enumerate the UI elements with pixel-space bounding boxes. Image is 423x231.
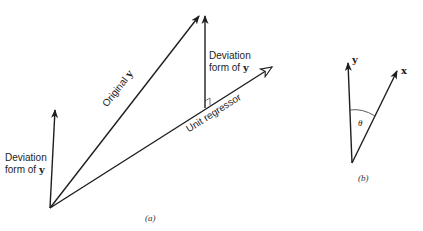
panel-a [50,16,272,208]
right-deviation-line2: form of y [209,62,251,74]
deviation-form-of-y-left-vector [50,110,55,208]
y-symbol: y [243,62,249,73]
unit-regressor-vector [50,67,272,208]
theta-label: θ [358,118,362,128]
regression-geometry-figure: Deviation form of y Original y Deviation… [0,0,423,231]
left-deviation-line2: form of y [5,164,47,176]
angle-arc [350,110,375,116]
original-y-vector [50,16,199,208]
left-deviation-line1: Deviation [5,152,47,164]
panel-a-caption: (a) [145,213,156,223]
right-deviation-line1: Deviation [209,50,251,62]
y-vector-label: y [352,54,358,65]
y-vector [348,63,352,163]
y-symbol: y [39,164,45,175]
panel-b [348,63,397,163]
x-vector [352,71,397,163]
panel-b-caption: (b) [358,173,369,183]
left-deviation-label: Deviation form of y [5,152,47,176]
x-vector-label: x [401,65,407,76]
right-angle-marker [205,98,210,105]
right-deviation-label: Deviation form of y [209,50,251,74]
